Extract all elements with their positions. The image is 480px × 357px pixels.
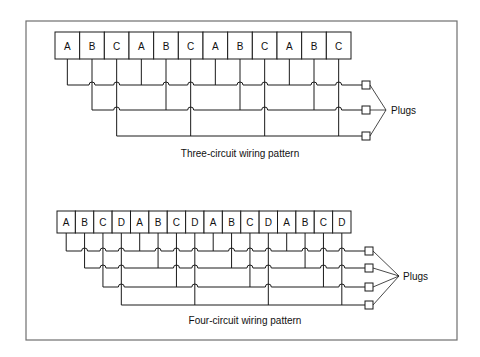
four-circuit-diagram: ABCDABCDABCDABCDPlugs: [57, 211, 428, 309]
circuit-wire-a: [67, 82, 362, 85]
terminal-label: C: [320, 217, 327, 228]
plug-icon: [365, 301, 373, 309]
plug-pointer-line: [370, 85, 386, 110]
terminal-label: D: [265, 217, 272, 228]
terminal-label: A: [283, 217, 290, 228]
terminal-label: C: [246, 217, 253, 228]
terminal-label: D: [338, 217, 345, 228]
terminal-label: B: [302, 217, 309, 228]
plug-icon: [365, 264, 373, 272]
terminal-label: B: [155, 217, 162, 228]
terminal-label: C: [187, 41, 194, 52]
terminal-label: B: [237, 41, 244, 52]
three-circuit-diagram: ABCABCABCABCPlugs: [55, 32, 416, 140]
terminal-label: A: [212, 41, 219, 52]
circuit-wire-b: [85, 265, 365, 268]
terminal-label: B: [163, 41, 170, 52]
terminal-label: B: [228, 217, 235, 228]
plug-icon: [365, 247, 373, 255]
terminal-label: C: [261, 41, 268, 52]
circuit-wire-c: [103, 284, 365, 287]
plug-icon: [362, 81, 370, 89]
wiring-diagram-figure: ABCABCABCABCPlugs Three-circuit wiring p…: [0, 0, 480, 357]
terminal-label: B: [81, 217, 88, 228]
plugs-label: Plugs: [391, 105, 416, 116]
terminal-label: A: [136, 217, 143, 228]
terminal-label: C: [335, 41, 342, 52]
plug-icon: [362, 132, 370, 140]
terminal-label: B: [311, 41, 318, 52]
terminal-label: C: [173, 217, 180, 228]
circuit-wire-a: [66, 248, 365, 251]
terminal-label: C: [99, 217, 106, 228]
terminal-label: A: [210, 217, 217, 228]
circuit-wire-b: [92, 107, 362, 110]
terminal-label: D: [118, 217, 125, 228]
figure-frame: [26, 21, 457, 340]
plug-icon: [365, 283, 373, 291]
four-circuit-caption: Four-circuit wiring pattern: [189, 315, 302, 326]
plug-pointer-line: [373, 276, 399, 287]
terminal-label: D: [191, 217, 198, 228]
terminal-label: C: [113, 41, 120, 52]
terminal-label: A: [286, 41, 293, 52]
terminal-label: A: [63, 217, 70, 228]
terminal-label: A: [138, 41, 145, 52]
plug-pointer-line: [373, 276, 399, 305]
terminal-label: B: [89, 41, 96, 52]
plug-pointer-line: [370, 110, 386, 136]
plugs-label: Plugs: [403, 271, 428, 282]
plug-icon: [362, 106, 370, 114]
terminal-label: A: [64, 41, 71, 52]
three-circuit-caption: Three-circuit wiring pattern: [181, 148, 299, 159]
